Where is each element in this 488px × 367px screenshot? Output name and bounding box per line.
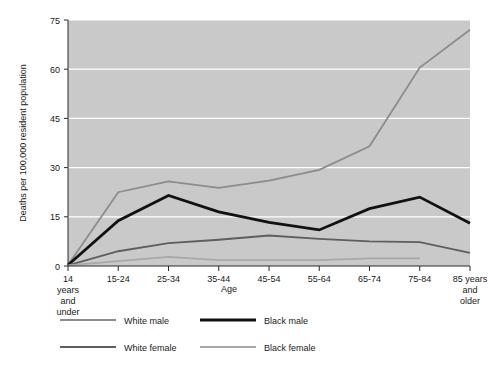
x-tick-label: 55-64 <box>308 274 331 284</box>
x-tick-label: years <box>57 285 80 295</box>
x-tick-label: 15-24 <box>107 274 130 284</box>
legend-label: Black male <box>264 316 308 326</box>
x-tick-label: 75-84 <box>408 274 431 284</box>
x-tick-label: older <box>460 296 480 306</box>
x-axis-title: Age <box>221 284 237 294</box>
y-tick-label: 45 <box>50 114 60 124</box>
y-axis-title: Deaths per 100,000 resident population <box>18 64 28 222</box>
legend-label: White female <box>124 343 177 353</box>
y-tick-label: 60 <box>50 65 60 75</box>
x-tick-label: 14 <box>63 274 73 284</box>
chart-figure: 01530456075 14yearsandunder15-2425-3435-… <box>0 0 488 367</box>
x-tick-label: 85 years <box>453 274 488 284</box>
x-tick-label: 45-54 <box>257 274 280 284</box>
x-tick-label: under <box>56 307 79 317</box>
x-tick-label: and <box>60 296 75 306</box>
y-tick-label: 15 <box>50 212 60 222</box>
legend-label: White male <box>124 316 169 326</box>
y-tick-label: 75 <box>50 16 60 26</box>
y-tick-label: 30 <box>50 163 60 173</box>
x-tick-label: 25-34 <box>157 274 180 284</box>
x-tick-label: 65-74 <box>358 274 381 284</box>
x-tick-label: and <box>462 285 477 295</box>
y-tick-label: 0 <box>55 262 60 272</box>
x-tick-label: 35-44 <box>207 274 230 284</box>
legend-label: Black female <box>264 343 316 353</box>
line-chart: 01530456075 14yearsandunder15-2425-3435-… <box>0 0 488 367</box>
plot-area-background <box>68 20 470 266</box>
